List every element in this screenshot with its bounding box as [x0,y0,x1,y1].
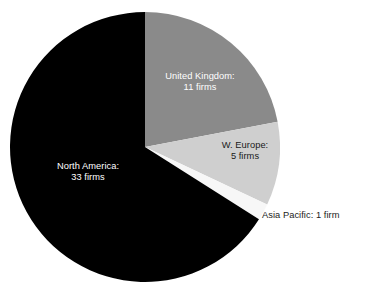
slice-label-w-europe-line1: W. Europe: [203,140,287,151]
slice-label-north-america-line2: 33 firms [36,172,140,183]
slice-label-w-europe: W. Europe: 5 firms [203,140,287,163]
slice-label-asia-pacific-line1: Asia Pacific: 1 firm [262,210,362,221]
slice-label-united-kingdom: United Kingdom: 11 firms [146,71,254,94]
slice-label-north-america: North America: 33 firms [36,161,140,184]
slice-label-asia-pacific: Asia Pacific: 1 firm [262,210,362,221]
slice-label-united-kingdom-line1: United Kingdom: [146,71,254,82]
pie-chart: United Kingdom: 11 firms W. Europe: 5 fi… [0,0,365,293]
pie-chart-canvas [0,0,365,293]
slice-label-united-kingdom-line2: 11 firms [146,82,254,93]
slice-label-w-europe-line2: 5 firms [203,151,287,162]
slice-label-north-america-line1: North America: [36,161,140,172]
